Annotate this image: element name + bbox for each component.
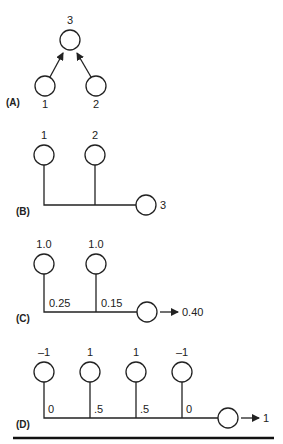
panel-a-input-node-2 <box>86 76 106 96</box>
panel-a-input-value-1: 1 <box>42 98 48 110</box>
panel-d-input-node-4 <box>172 362 192 382</box>
panel-b: 1 2 3 (B) <box>16 129 166 217</box>
panel-c-input-value-2: 1.0 <box>88 238 103 250</box>
panel-d-input-node-3 <box>126 362 146 382</box>
panel-d-input-value-3: 1 <box>133 346 139 358</box>
panel-d: –1 1 1 –1 0 .5 .5 0 1 (D) <box>16 346 269 430</box>
panel-d-input-node-2 <box>80 362 100 382</box>
panel-a-input-value-2: 2 <box>93 98 99 110</box>
panel-a-input-node-1 <box>35 76 55 96</box>
panel-c-label: (C) <box>16 313 30 324</box>
panel-d-weight-2: .5 <box>94 403 103 415</box>
panel-d-weight-3: .5 <box>140 403 149 415</box>
arrow-icon <box>50 53 63 77</box>
panel-b-input-node-2 <box>85 145 105 165</box>
panel-d-input-value-1: –1 <box>38 346 50 358</box>
panel-c-output-node <box>137 302 157 322</box>
panel-d-weight-1: 0 <box>48 403 54 415</box>
panel-d-weight-4: 0 <box>186 403 192 415</box>
panel-d-output-value: 1 <box>263 412 269 424</box>
panel-b-input-value-1: 1 <box>41 129 47 141</box>
panel-b-input-node-1 <box>34 145 54 165</box>
panel-a-output-value: 3 <box>67 14 73 26</box>
panel-c-input-value-1: 1.0 <box>36 238 51 250</box>
panel-d-input-node-1 <box>34 362 54 382</box>
panel-c-weight-2: 0.15 <box>101 297 122 309</box>
panel-c-output-value: 0.40 <box>182 306 203 318</box>
panel-a-label: (A) <box>6 97 20 108</box>
panel-d-input-value-4: –1 <box>176 346 188 358</box>
panel-b-input-value-2: 2 <box>92 129 98 141</box>
panel-d-input-value-2: 1 <box>87 346 93 358</box>
panel-c-input-node-1 <box>34 254 54 274</box>
panel-a-output-node <box>60 30 80 50</box>
panel-c-weight-1: 0.25 <box>49 297 70 309</box>
panel-b-label: (B) <box>16 206 30 217</box>
panel-a: 3 1 2 (A) <box>6 14 106 110</box>
panel-d-output-node <box>218 408 238 428</box>
panel-b-output-node <box>136 195 156 215</box>
panel-c: 1.0 1.0 0.25 0.15 0.40 (C) <box>16 238 203 324</box>
panel-c-input-node-2 <box>86 254 106 274</box>
panel-b-output-value: 3 <box>160 199 166 211</box>
network-diagram: 3 1 2 (A) 1 2 3 (B) 1.0 1.0 0.25 0.15 0.… <box>0 0 283 444</box>
panel-d-label: (D) <box>16 419 30 430</box>
arrow-icon <box>77 53 91 77</box>
